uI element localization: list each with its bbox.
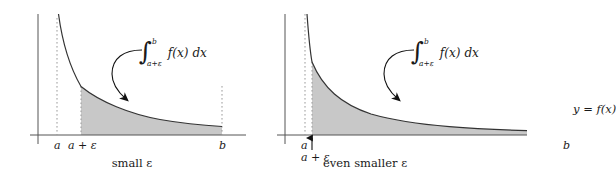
integral-lower-limit: a+ε bbox=[419, 60, 434, 68]
panel-even-smaller-epsilon: ∫ b a+ε f(x) dx y = f(x) a a + ε b even … bbox=[263, 0, 527, 176]
axis-label-b: b bbox=[219, 140, 226, 151]
axis-label-a: a bbox=[301, 140, 308, 151]
axis-label-b: b bbox=[563, 140, 570, 151]
curve-label: y = f(x) bbox=[573, 104, 616, 116]
integral-integrand: f(x) bbox=[440, 47, 461, 59]
integral-lower-limit: a+ε bbox=[147, 60, 162, 68]
shaded-region bbox=[81, 87, 222, 136]
integral-differential: dx bbox=[464, 47, 478, 59]
integral-integrand: f(x) bbox=[168, 47, 189, 59]
integral-expression: ∫ b a+ε f(x) dx bbox=[411, 40, 479, 65]
panel-caption: even smaller ε bbox=[323, 158, 587, 170]
panel-caption: small ε bbox=[0, 158, 264, 170]
annotation-arrow bbox=[112, 50, 142, 99]
integral-upper-limit: b bbox=[152, 38, 167, 46]
axis-label-a-plus-epsilon: a + ε bbox=[68, 140, 97, 151]
panel-small-epsilon: ∫ b a+ε f(x) dx a a + ε b small ε bbox=[0, 0, 264, 176]
axis-label-a: a bbox=[54, 140, 61, 151]
annotation-arrow bbox=[384, 50, 414, 99]
integral-upper-limit: b bbox=[424, 38, 439, 46]
integral-differential: dx bbox=[192, 47, 206, 59]
integral-expression: ∫ b a+ε f(x) dx bbox=[139, 40, 207, 65]
